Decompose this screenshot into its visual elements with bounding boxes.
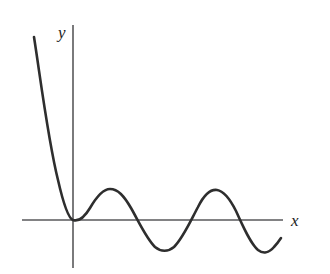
figure-container: y x (0, 0, 330, 274)
x-axis-label: x (290, 211, 299, 230)
graph-plot: y x (0, 0, 330, 274)
y-axis-label: y (56, 23, 66, 42)
